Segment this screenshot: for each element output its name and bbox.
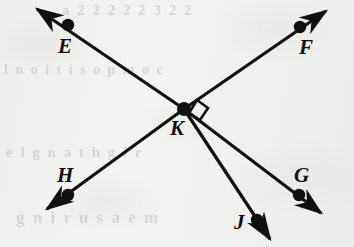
vertex-label-J: J [234, 212, 245, 233]
geometry-figure: a 2 2 2 2 2 3 2 2 l n o i t i s o p m o … [0, 0, 354, 247]
point-dot-E [62, 19, 74, 31]
point-dot-K [177, 102, 191, 116]
vertex-label-F: F [299, 37, 313, 58]
vertex-label-K: K [170, 118, 184, 139]
vertex-label-G: G [294, 165, 309, 186]
vertex-label-E: E [58, 36, 72, 57]
segment-K-to-E-arrow [37, 9, 184, 109]
point-dot-H [62, 189, 74, 201]
point-dot-G [293, 189, 305, 201]
point-dot-J [251, 214, 263, 226]
point-dot-F [294, 21, 306, 33]
vertex-label-H: H [57, 165, 73, 186]
